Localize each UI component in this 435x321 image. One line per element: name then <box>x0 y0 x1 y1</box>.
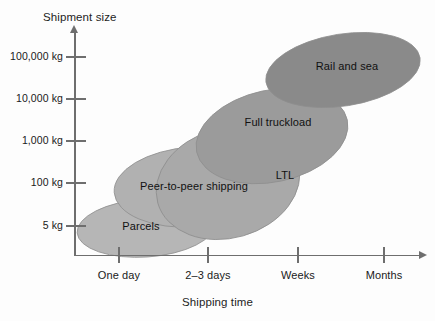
y-axis-tick-mark <box>66 182 86 184</box>
x-axis-tick-label: Months <box>366 269 403 281</box>
y-axis-tick-label: 100 kg <box>31 176 63 188</box>
x-axis-tick-label: One day <box>98 269 140 281</box>
y-axis-arrow-icon <box>70 25 78 33</box>
x-axis-tick-mark <box>383 247 385 263</box>
x-axis-tick-mark <box>207 247 209 263</box>
x-axis-arrow-icon <box>419 251 427 259</box>
x-axis-tick-mark <box>118 247 120 263</box>
y-axis-tick-label: 5 kg <box>43 219 63 231</box>
y-axis-tick-mark <box>66 98 86 100</box>
y-axis-tick-label: 100,000 kg <box>10 50 63 62</box>
y-axis-tick-label: 10,000 kg <box>16 92 63 104</box>
x-axis-tick-mark <box>297 247 299 263</box>
y-axis-tick-mark <box>66 56 86 58</box>
y-axis-tick-mark <box>66 140 86 142</box>
y-axis-tick-mark <box>66 225 86 227</box>
y-axis-tick-label: 1,000 kg <box>22 134 63 146</box>
y-axis-line <box>74 32 76 256</box>
x-axis-line <box>74 255 421 257</box>
shipping-modes-chart: Shipment size Shipping time ParcelsPeer-… <box>0 0 435 321</box>
x-axis-tick-label: Weeks <box>281 269 315 281</box>
x-axis-tick-label: 2–3 days <box>185 269 230 281</box>
